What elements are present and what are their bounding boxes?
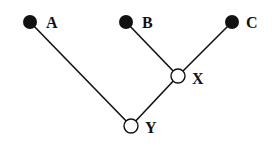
edge-c-x	[178, 22, 232, 76]
label-b: B	[142, 14, 153, 31]
label-a: A	[46, 14, 58, 31]
node-a	[23, 15, 37, 29]
node-y	[124, 119, 138, 133]
label-c: C	[246, 14, 258, 31]
nodes	[23, 15, 239, 133]
node-b	[119, 15, 133, 29]
label-x: X	[192, 70, 204, 87]
node-c	[225, 15, 239, 29]
tree-diagram: A B C X Y	[0, 0, 279, 161]
labels: A B C X Y	[46, 14, 258, 136]
edge-a-y	[30, 22, 131, 126]
node-x	[171, 69, 185, 83]
label-y: Y	[145, 119, 157, 136]
